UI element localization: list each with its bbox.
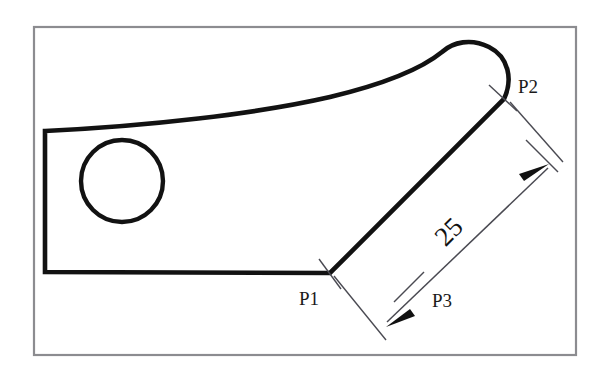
point-label-p2: P2 — [518, 76, 538, 97]
extension-line-p1 — [334, 276, 386, 340]
circular-hole — [81, 140, 163, 222]
point-label-p1: P1 — [299, 288, 319, 309]
technical-drawing-svg: 25 P1 P2 P3 — [0, 0, 593, 369]
tick-mark-p3 — [394, 272, 424, 302]
extension-line-p2 — [510, 102, 563, 162]
point-label-p3: P3 — [432, 290, 452, 311]
drawing-canvas: 25 P1 P2 P3 — [0, 0, 593, 369]
dimension-arrow-end — [519, 164, 549, 181]
dimension-value: 25 — [428, 211, 468, 251]
